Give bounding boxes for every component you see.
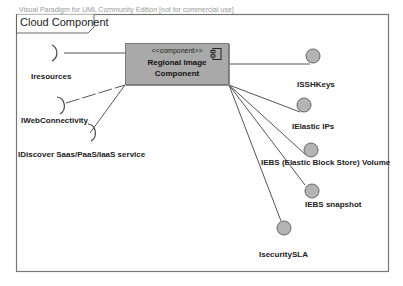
label-ielasticips: IElastic IPs — [292, 122, 334, 131]
label-isshkeys: ISSHKeys — [297, 80, 335, 89]
component-name: Regional Image Component — [126, 57, 228, 79]
interface-isecuritysla[interactable] — [277, 221, 291, 235]
label-iebs-snapshot: IEBS snapshot — [305, 200, 361, 209]
interface-isshkeys[interactable] — [306, 49, 320, 63]
component-name-line2: Component — [126, 68, 228, 79]
watermark-text: Visual Paradigm for UML Community Editio… — [19, 6, 234, 13]
frame-title: Cloud Component — [20, 16, 109, 28]
component-icon — [210, 48, 222, 60]
label-iresources: Iresources — [31, 72, 71, 81]
interface-iebs-volume[interactable] — [304, 143, 318, 157]
component-regional-image[interactable]: <<component>> Regional Image Component — [125, 43, 229, 85]
label-isecuritysla: IsecuritySLA — [259, 250, 308, 259]
label-iebs-volume: IEBS (Elastic Block Store) Volume — [261, 158, 390, 167]
interface-ielasticips[interactable] — [297, 98, 311, 112]
label-idiscover: IDiscover Saas/PaaS/IaaS service — [18, 150, 145, 159]
label-iwebconnectivity: IWebConnectivity — [21, 116, 88, 125]
interface-iebs-snapshot[interactable] — [305, 184, 319, 198]
